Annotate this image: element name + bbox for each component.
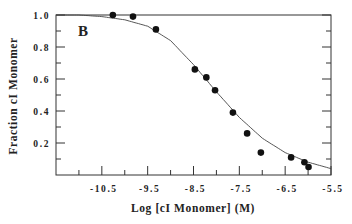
y-axis-ticks xyxy=(56,15,331,159)
x-axis-ticks xyxy=(79,166,331,175)
data-point xyxy=(153,26,160,33)
x-tick-label: -7.5 xyxy=(231,184,252,194)
y-tick-label: 0.6 xyxy=(33,75,50,85)
data-point xyxy=(212,87,219,94)
data-point xyxy=(110,12,117,19)
data-point xyxy=(288,154,295,161)
data-point xyxy=(244,130,251,137)
data-point xyxy=(192,66,199,73)
data-point xyxy=(230,109,237,116)
plot-frame xyxy=(56,15,331,175)
fit-curve xyxy=(56,15,331,169)
data-point xyxy=(305,164,312,171)
x-axis-tick-labels: -10.5-9.5-8.5-7.5-6.5-5.5 xyxy=(90,184,344,194)
data-points xyxy=(110,12,312,171)
x-tick-label: -9.5 xyxy=(139,184,160,194)
data-point xyxy=(203,74,210,81)
chart: -10.5-9.5-8.5-7.5-6.5-5.5 0.20.40.60.81.… xyxy=(0,0,352,224)
x-axis-title: Log [cI Monomer] (M) xyxy=(131,202,255,215)
y-tick-label: 0.8 xyxy=(33,43,50,53)
x-tick-label: -5.5 xyxy=(322,184,343,194)
x-tick-label: -6.5 xyxy=(276,184,297,194)
x-tick-label: -10.5 xyxy=(90,184,118,194)
x-tick-label: -8.5 xyxy=(185,184,206,194)
data-point xyxy=(258,149,265,156)
y-tick-label: 1.0 xyxy=(33,11,50,21)
data-point xyxy=(130,13,137,20)
y-axis-title: Fraction cI Monomer xyxy=(7,37,19,154)
y-axis-tick-labels: 0.20.40.60.81.0 xyxy=(33,11,50,149)
panel-label: B xyxy=(78,23,88,39)
y-tick-label: 0.4 xyxy=(33,107,50,117)
y-tick-label: 0.2 xyxy=(33,139,50,149)
